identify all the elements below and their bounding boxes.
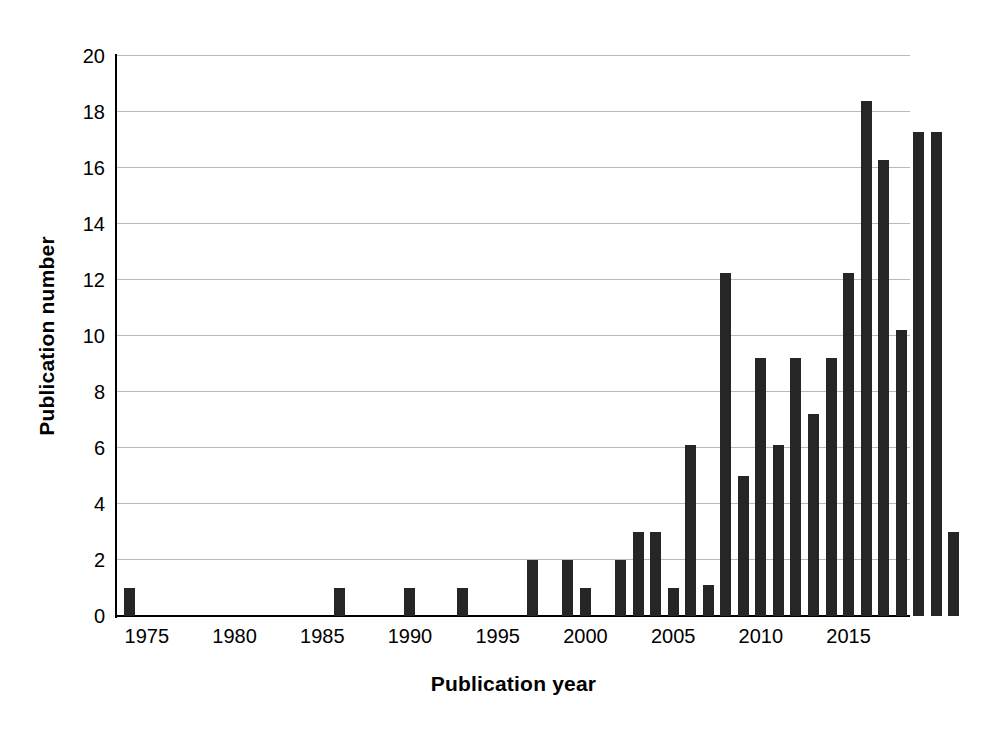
y-tick-label: 12 — [65, 270, 105, 290]
y-tick-label: 16 — [65, 158, 105, 178]
bar — [861, 101, 872, 616]
y-tick-label: 18 — [65, 102, 105, 122]
bar — [878, 160, 889, 616]
y-tick-label: 8 — [65, 382, 105, 402]
bar — [755, 358, 766, 616]
bar — [808, 414, 819, 616]
x-tick-label: 1975 — [102, 624, 192, 648]
bar — [124, 588, 135, 616]
x-tick-label: 1985 — [277, 624, 367, 648]
bar — [826, 358, 837, 616]
y-axis-tick-labels: 02468101214161820 — [57, 56, 105, 616]
x-tick-label: 2000 — [540, 624, 630, 648]
x-axis-tick-labels: 197519801985199019952000200520102015 — [117, 624, 910, 654]
bar — [615, 560, 626, 616]
y-tick-label: 4 — [65, 494, 105, 514]
bar — [931, 132, 942, 616]
bar — [703, 585, 714, 616]
bar-chart-figure: Publication number 02468101214161820 197… — [0, 0, 992, 739]
x-tick-label: 2005 — [628, 624, 718, 648]
bar — [790, 358, 801, 616]
y-tick-label: 6 — [65, 438, 105, 458]
bar — [334, 588, 345, 616]
bar — [773, 445, 784, 616]
bar — [527, 560, 538, 616]
bar — [404, 588, 415, 616]
bar — [580, 588, 591, 616]
bar — [720, 273, 731, 616]
y-tick-label: 2 — [65, 550, 105, 570]
bar — [685, 445, 696, 616]
x-tick-label: 2010 — [716, 624, 806, 648]
y-tick-label: 0 — [65, 606, 105, 626]
bar-series — [117, 56, 910, 616]
bar — [913, 132, 924, 616]
bar — [896, 330, 907, 616]
bar — [843, 273, 854, 616]
y-tick-label: 20 — [65, 46, 105, 66]
bar — [562, 560, 573, 616]
y-tick-label: 14 — [65, 214, 105, 234]
bar — [650, 532, 661, 616]
x-tick-label: 1990 — [365, 624, 455, 648]
bar — [738, 476, 749, 616]
bar — [668, 588, 679, 616]
x-tick-label: 2015 — [804, 624, 894, 648]
x-tick-label: 1995 — [453, 624, 543, 648]
plot-area — [117, 56, 910, 616]
bar — [633, 532, 644, 616]
x-axis-title: Publication year — [117, 672, 910, 696]
y-tick-label: 10 — [65, 326, 105, 346]
bar — [457, 588, 468, 616]
x-tick-label: 1980 — [190, 624, 280, 648]
bar — [948, 532, 959, 616]
